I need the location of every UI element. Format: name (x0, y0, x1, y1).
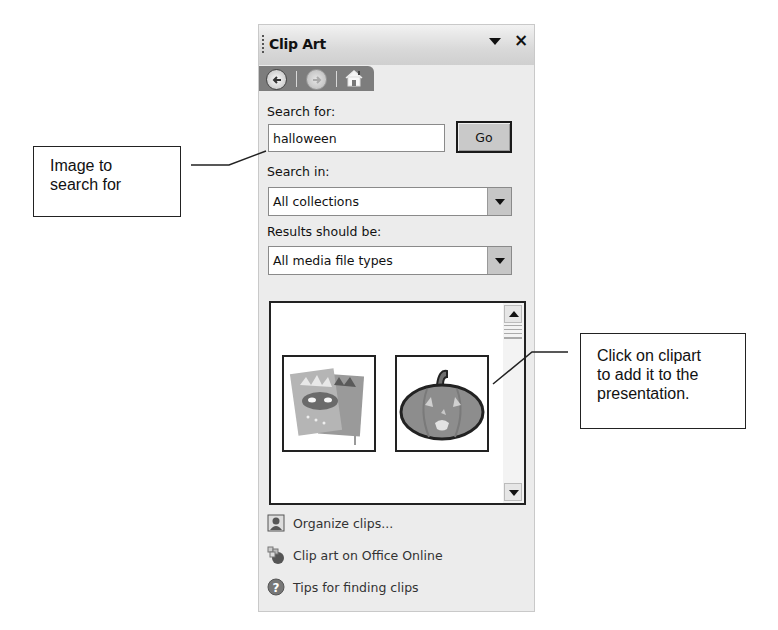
help-icon: ? (267, 578, 285, 596)
close-icon[interactable]: × (514, 32, 528, 49)
clip-art-task-pane: Clip Art × Search for: Go Search in: All… (258, 24, 535, 612)
task-pane-title: Clip Art (269, 36, 326, 52)
tips-label: Tips for finding clips (293, 580, 419, 595)
results-scrollbar[interactable] (503, 303, 524, 503)
chevron-down-icon[interactable] (487, 188, 511, 215)
home-button[interactable] (343, 68, 365, 88)
nav-separator (336, 71, 337, 87)
search-input[interactable] (268, 124, 445, 152)
callout-text-line: search for (50, 175, 180, 194)
go-button[interactable]: Go (456, 121, 512, 153)
back-button[interactable] (266, 69, 287, 90)
office-online-label: Clip art on Office Online (293, 548, 443, 563)
forward-button[interactable] (306, 69, 327, 90)
search-in-label: Search in: (267, 164, 330, 179)
callout-text-line: to add it to the (597, 365, 745, 384)
search-in-select[interactable]: All collections (268, 187, 512, 216)
clip-art-office-online-link[interactable]: Clip art on Office Online (267, 545, 443, 565)
home-icon (343, 68, 365, 88)
forward-arrow-icon (311, 74, 323, 86)
results-type-value: All media file types (273, 253, 393, 268)
svg-text:?: ? (273, 581, 280, 595)
pumpkin-clipart-icon (397, 357, 487, 450)
masks-clipart-icon (284, 357, 374, 450)
scroll-up-icon[interactable] (504, 305, 522, 323)
organize-clips-link[interactable]: Organize clips... (267, 513, 393, 533)
callout-text-line: Click on clipart (597, 346, 745, 365)
results-type-select[interactable]: All media file types (268, 246, 512, 275)
results-list (269, 301, 526, 505)
search-in-value: All collections (273, 194, 359, 209)
clipart-result-masks[interactable] (282, 355, 376, 452)
scroll-down-icon[interactable] (504, 483, 522, 501)
back-arrow-icon (271, 74, 283, 86)
results-should-be-label: Results should be: (267, 224, 381, 239)
office-online-icon (267, 546, 285, 564)
tips-for-finding-clips-link[interactable]: ? Tips for finding clips (267, 577, 419, 597)
task-pane-title-bar[interactable]: Clip Art × (259, 25, 534, 65)
organize-clips-icon (267, 514, 285, 532)
callout-click-clipart: Click on clipart to add it to the presen… (580, 333, 746, 429)
clipart-result-pumpkin[interactable] (395, 355, 489, 452)
organize-clips-label: Organize clips... (293, 516, 393, 531)
callout-text-line: presentation. (597, 384, 745, 403)
task-pane-menu-dropdown-icon[interactable] (489, 38, 501, 45)
drag-grip-icon[interactable] (262, 35, 264, 55)
callout-image-to-search: Image to search for (33, 146, 181, 217)
search-for-label: Search for: (267, 104, 335, 119)
scrollbar-thumb[interactable] (504, 325, 522, 339)
task-pane-nav-bar (259, 66, 374, 91)
callout-text-line: Image to (50, 156, 180, 175)
chevron-down-icon[interactable] (487, 247, 511, 274)
leader-line-search (191, 151, 266, 165)
nav-separator (296, 71, 297, 87)
